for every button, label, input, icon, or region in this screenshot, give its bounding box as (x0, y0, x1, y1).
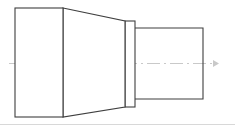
large-cylinder-body-group (15, 8, 63, 117)
drawing-svg (0, 0, 235, 126)
tapered-cone-section-group (63, 8, 125, 117)
centerline-arrowhead-icon (213, 60, 219, 67)
tapered-cone-section (63, 8, 125, 117)
technical-drawing-canvas: Concentric Reducer Side View Engineering… (0, 0, 235, 126)
flange-collar-group (125, 21, 135, 107)
flange-collar (125, 21, 135, 107)
large-cylinder-body (15, 8, 63, 117)
